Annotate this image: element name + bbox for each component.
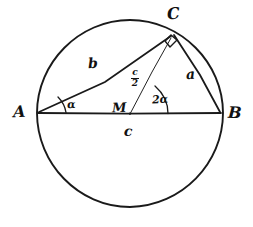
angle-label-two-alpha: 2α xyxy=(152,94,169,106)
angle-label-alpha: α xyxy=(67,99,76,110)
geometry-diagram: A B C M b a c c 2 α 2α xyxy=(0,0,253,227)
center-point-marker xyxy=(129,112,131,114)
radius-label-c-over-2: c 2 xyxy=(131,68,139,89)
side-label-a: a xyxy=(186,67,196,82)
side-label-b: b xyxy=(88,56,99,70)
radius-label-denominator: 2 xyxy=(132,79,138,88)
radius-label-numerator: c xyxy=(132,68,137,77)
center-label-m: M xyxy=(112,101,127,114)
vertex-label-c: C xyxy=(166,5,180,22)
side-label-c: c xyxy=(124,124,133,138)
vertex-label-a: A xyxy=(13,104,26,120)
vertex-label-b: B xyxy=(228,105,242,122)
